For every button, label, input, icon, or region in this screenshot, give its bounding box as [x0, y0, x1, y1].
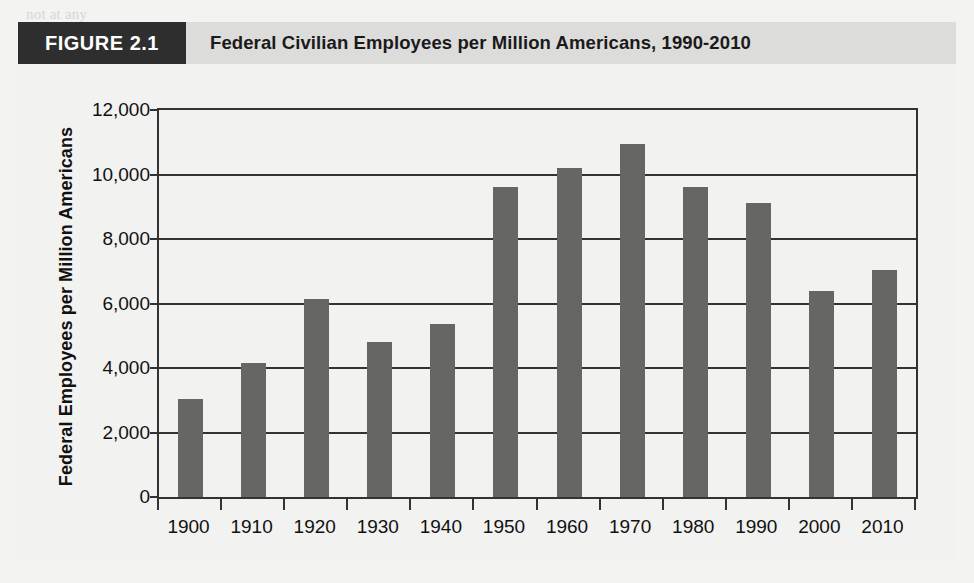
bar — [430, 324, 455, 497]
bar — [683, 187, 708, 497]
x-tick-label: 2010 — [861, 516, 903, 538]
y-tick-label: 0 — [139, 486, 150, 508]
bar — [809, 291, 834, 497]
bar — [746, 203, 771, 497]
bar-series — [159, 110, 916, 497]
y-tick-mark — [150, 303, 159, 305]
bar — [872, 270, 897, 497]
bar — [367, 342, 392, 497]
x-tick-mark — [409, 499, 411, 510]
figure-number-tag: FIGURE 2.1 — [18, 22, 186, 64]
y-axis-title: Federal Employees per Million Americans — [56, 122, 77, 492]
y-tick-mark — [150, 174, 159, 176]
x-tick-label: 1950 — [483, 516, 525, 538]
x-tick-mark — [914, 499, 916, 510]
x-tick-label: 1990 — [735, 516, 777, 538]
x-tick-mark — [283, 499, 285, 510]
y-tick-label: 12,000 — [92, 99, 150, 121]
x-axis: 1900191019201930194019501960197019801990… — [157, 499, 918, 559]
y-tick-mark — [150, 109, 159, 111]
x-tick-label: 1900 — [167, 516, 209, 538]
bar — [557, 168, 582, 497]
y-tick-label: 4,000 — [102, 357, 150, 379]
x-tick-label: 1970 — [609, 516, 651, 538]
bar — [493, 187, 518, 497]
bar — [304, 299, 329, 497]
figure-title: Federal Civilian Employees per Million A… — [186, 22, 956, 64]
figure-container: FIGURE 2.1 Federal Civilian Employees pe… — [18, 22, 956, 562]
figure-header: FIGURE 2.1 Federal Civilian Employees pe… — [18, 22, 956, 64]
x-tick-mark — [788, 499, 790, 510]
x-tick-label: 1960 — [546, 516, 588, 538]
x-tick-mark — [157, 499, 159, 510]
y-tick-mark — [150, 496, 159, 498]
bar — [241, 363, 266, 497]
x-tick-mark — [220, 499, 222, 510]
bar — [178, 399, 203, 497]
x-tick-mark — [851, 499, 853, 510]
y-tick-mark — [150, 432, 159, 434]
x-tick-mark — [346, 499, 348, 510]
bar — [620, 144, 645, 497]
x-tick-mark — [662, 499, 664, 510]
y-tick-label: 2,000 — [102, 422, 150, 444]
x-tick-label: 1910 — [230, 516, 272, 538]
y-tick-label: 6,000 — [102, 293, 150, 315]
x-tick-label: 2000 — [798, 516, 840, 538]
background-text-line: not at any — [26, 6, 87, 23]
x-tick-label: 1940 — [420, 516, 462, 538]
x-tick-mark — [472, 499, 474, 510]
y-tick-label: 8,000 — [102, 228, 150, 250]
y-tick-mark — [150, 367, 159, 369]
x-tick-label: 1980 — [672, 516, 714, 538]
x-tick-label: 1920 — [294, 516, 336, 538]
x-tick-label: 1930 — [357, 516, 399, 538]
chart-area: Federal Employees per Million Americans … — [18, 64, 956, 562]
x-tick-mark — [536, 499, 538, 510]
y-tick-mark — [150, 238, 159, 240]
x-tick-mark — [725, 499, 727, 510]
plot-area: 02,0004,0006,0008,00010,00012,000 — [157, 108, 918, 499]
y-tick-label: 10,000 — [92, 164, 150, 186]
x-tick-mark — [599, 499, 601, 510]
